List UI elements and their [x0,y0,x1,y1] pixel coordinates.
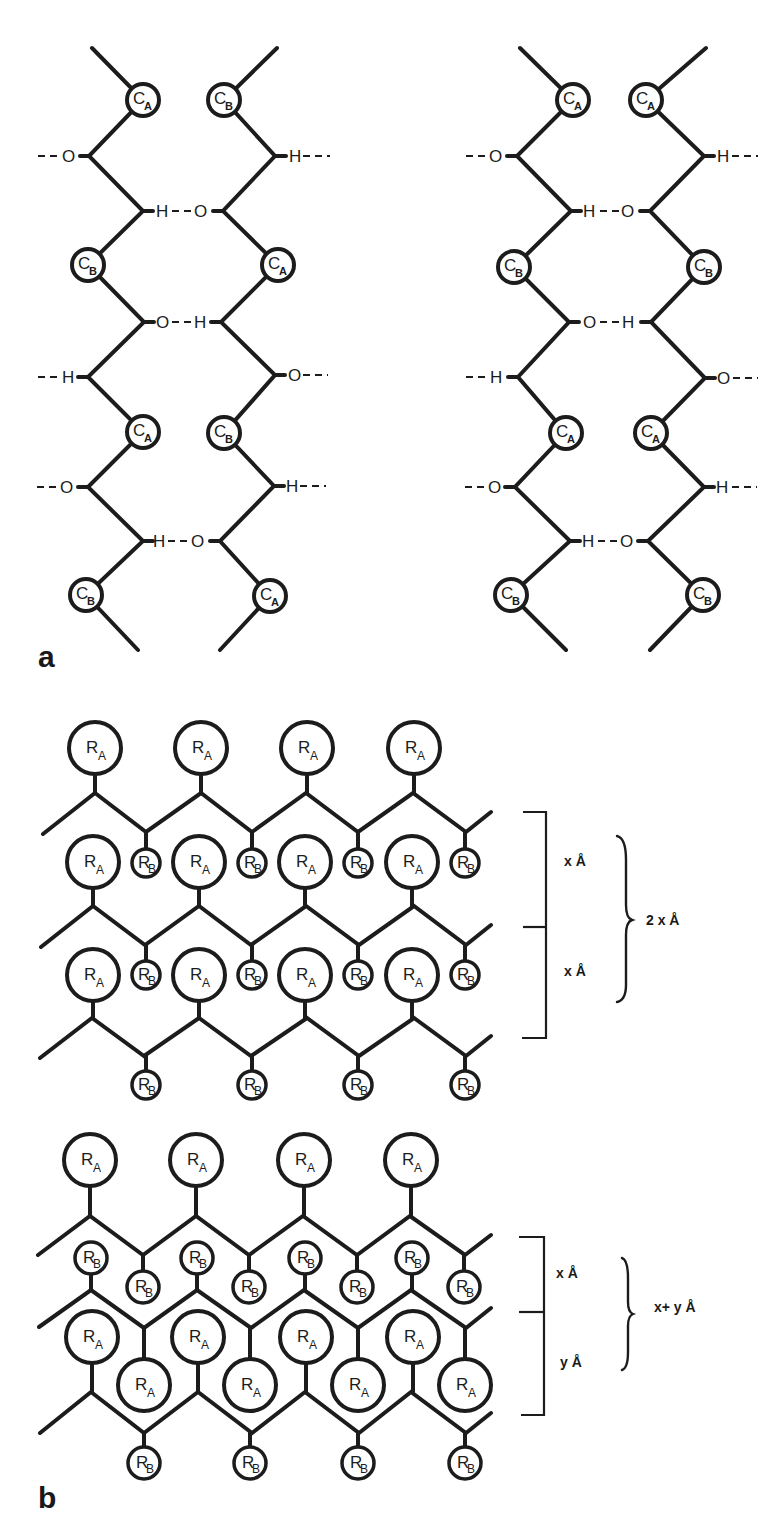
svg-text:R: R [192,738,204,757]
beta-sheet-packing-figure: O H H O O H H O O H H O [0,0,782,1527]
svg-text:B: B [148,974,156,988]
svg-text:B: B [87,595,95,607]
svg-text:B: B [145,1286,153,1300]
svg-text:R: R [298,738,310,757]
residue-ra: RA [67,836,119,888]
residue-ca: CA [630,84,662,116]
svg-text:B: B [254,862,262,876]
svg-text:A: A [253,1386,261,1400]
svg-text:R: R [189,1327,201,1346]
dimension-label-total: x+ y Å [654,1299,696,1315]
svg-text:B: B [512,595,520,607]
residue-cb: CB [687,579,719,611]
residue-cb: CB [208,84,240,116]
lattice-heterogeneous: RARBRBRARARBRARBRBRARARBRARBRBRARARBRARB… [38,1134,696,1479]
svg-text:A: A [652,433,660,445]
residue-ra: RA [173,836,225,888]
svg-text:A: A [310,749,318,763]
hydrogen-atom: H [286,477,298,496]
hydrogen-atom: H [583,202,595,221]
residue-ra: RA [173,949,225,1001]
hydrogen-atom: H [582,532,594,551]
residue-ra: RA [385,1134,437,1186]
oxygen-atom: O [288,366,301,385]
svg-text:A: A [202,976,210,990]
residue-ra: RA [278,1134,330,1186]
svg-text:R: R [84,965,96,984]
svg-text:B: B [359,1286,367,1300]
residue-ra: RA [332,1359,384,1411]
svg-text:R: R [295,1150,307,1169]
svg-text:B: B [360,1462,368,1476]
oxygen-atom: O [194,202,207,221]
residue-ra: RA [118,1359,170,1411]
residue-ra: RA [224,1359,276,1411]
hydrogen-atom: H [194,313,206,332]
svg-text:A: A [416,1338,424,1352]
residue-ra: RA [388,722,440,774]
panel-label-b: b [38,1481,56,1514]
svg-text:A: A [147,1386,155,1400]
residue-rb: RB [451,1071,479,1099]
oxygen-atom: O [191,532,204,551]
oxygen-atom: O [60,478,73,497]
svg-text:A: A [307,1161,315,1175]
hydrogen-atom: H [289,147,301,166]
svg-text:B: B [360,862,368,876]
svg-text:A: A [308,863,316,877]
svg-text:R: R [135,1375,147,1394]
oxygen-atom: O [583,313,596,332]
residue-rb: RB [238,1071,266,1099]
residue-cb: CB [688,251,720,283]
svg-text:A: A [144,100,152,112]
svg-text:B: B [199,1257,207,1271]
svg-text:B: B [148,862,156,876]
oxygen-atom: O [488,478,501,497]
lattice1-stubs [93,774,465,1071]
dimension-label-total: 2 x Å [646,912,679,928]
svg-text:A: A [415,863,423,877]
svg-text:A: A [201,1338,209,1352]
residue-ra: RA [281,722,333,774]
svg-text:A: A [415,976,423,990]
residue-rb: RB [451,849,479,877]
svg-text:R: R [456,1375,468,1394]
residue-ca: CA [254,580,286,612]
svg-text:R: R [83,1327,95,1346]
dimension-label-upper: x Å [564,853,586,869]
svg-text:R: R [297,1327,309,1346]
residue-ra: RA [172,1311,224,1363]
residue-rb: RB [344,961,372,989]
svg-text:A: A [95,1338,103,1352]
svg-text:R: R [296,852,308,871]
residue-ca: CA [550,417,582,449]
residue-ra: RA [279,836,331,888]
residue-cb: CB [72,249,104,281]
hydrogen-atom: H [716,478,728,497]
svg-text:R: R [241,1375,253,1394]
oxygen-atom: O [62,147,75,166]
residue-rb: RB [289,1242,321,1274]
svg-text:A: A [308,976,316,990]
residue-rb: RB [132,961,160,989]
dimension-label-lower: x Å [564,963,586,979]
svg-text:B: B [360,974,368,988]
svg-text:A: A [574,100,582,112]
residue-cb: CB [498,251,530,283]
hydrogen-atom: H [490,368,502,387]
residue-rb: RB [238,961,266,989]
svg-text:A: A [567,433,575,445]
svg-text:A: A [98,749,106,763]
svg-text:A: A [96,863,104,877]
svg-text:B: B [360,1084,368,1098]
residue-ra: RA [170,1134,222,1186]
residue-rb: RB [448,1271,480,1303]
svg-text:B: B [467,1462,475,1476]
residue-ra: RA [64,1134,116,1186]
svg-text:R: R [403,965,415,984]
residue-ra: RA [439,1359,491,1411]
residue-ra: RA [387,1311,439,1363]
residue-rb: RB [234,1447,266,1479]
residue-ra: RA [66,1311,118,1363]
svg-text:B: B [704,595,712,607]
